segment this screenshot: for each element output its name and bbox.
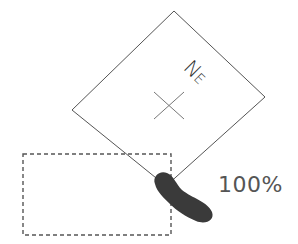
dashed-original-outline	[23, 154, 171, 235]
finger-touch-icon	[154, 172, 212, 222]
diagram-canvas	[0, 0, 298, 244]
rotated-frame[interactable]	[72, 11, 265, 186]
center-cross-icon	[154, 92, 184, 119]
scale-percentage-label: 100%	[218, 172, 283, 197]
